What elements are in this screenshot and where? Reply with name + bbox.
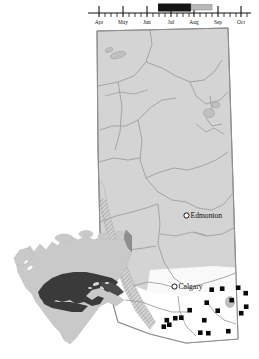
sampling-site [215, 308, 220, 313]
sampling-site [239, 311, 244, 316]
figure-root: Apr May Jun Jul Aug Sep Oct [0, 0, 259, 359]
timeline-label-jun: Jun [143, 19, 151, 25]
sampling-site [209, 287, 214, 292]
city-label-edmonton: Edmonton [191, 211, 223, 220]
city-label-calgary: Calgary [179, 282, 203, 291]
sampling-site [165, 318, 170, 323]
north-america-inset [14, 230, 132, 344]
sampling-site [244, 304, 249, 309]
timeline-label-jul: Jul [168, 19, 175, 25]
sampling-site [179, 315, 184, 320]
sampling-site [229, 298, 234, 303]
timeline-label-sep: Sep [214, 19, 222, 25]
map-canvas: Apr May Jun Jul Aug Sep Oct [0, 0, 259, 359]
city-marker-calgary [172, 284, 177, 289]
sampling-site [187, 308, 192, 313]
sampling-season-timeline: Apr May Jun Jul Aug Sep Oct [88, 4, 251, 26]
sampling-site [220, 286, 225, 291]
secondary-period-bar [191, 5, 212, 11]
sampling-site [206, 331, 211, 336]
sampling-site [204, 300, 209, 305]
timeline-label-aug: Aug [189, 19, 199, 25]
sampling-site [202, 318, 207, 323]
timeline-label-may: May [118, 19, 128, 25]
sampling-site [162, 324, 167, 329]
timeline-minor-ticks [105, 13, 247, 17]
sampling-site [243, 291, 248, 296]
sampling-site [236, 285, 241, 290]
timeline-label-oct: Oct [237, 19, 245, 25]
city-marker-edmonton [184, 213, 189, 218]
sampling-site [173, 316, 178, 321]
timeline-label-apr: Apr [95, 19, 104, 25]
sampling-site [167, 322, 172, 327]
primary-period-bar [158, 4, 191, 12]
sampling-site [198, 330, 203, 335]
sampling-site [226, 329, 231, 334]
